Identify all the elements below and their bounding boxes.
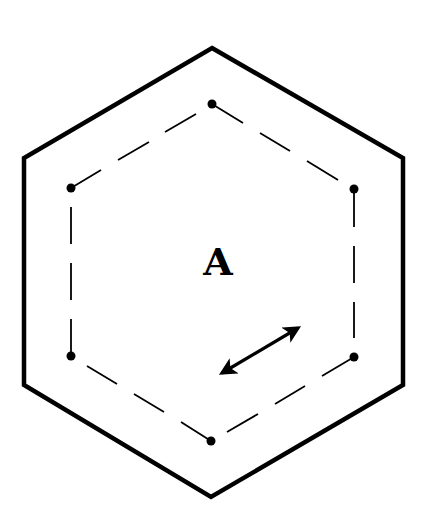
vertex-dot-top: [208, 100, 217, 109]
region-label: A: [196, 240, 240, 284]
hexagon-diagram: A: [0, 0, 425, 532]
vertex-dot-lower-right: [350, 353, 359, 362]
vertex-dot-bottom: [207, 437, 216, 446]
vertex-dot-lower-left: [67, 352, 76, 361]
vertex-dot-upper-right: [350, 185, 359, 194]
double-arrow-icon: [222, 328, 298, 373]
vertex-dot-upper-left: [67, 184, 76, 193]
